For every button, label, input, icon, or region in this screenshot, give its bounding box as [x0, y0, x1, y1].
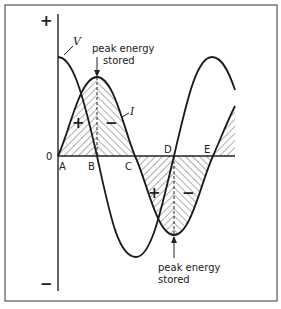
axis-minus-label: −: [40, 275, 53, 293]
top-arrow-head-icon: [94, 70, 100, 77]
point-label-d: D: [164, 144, 172, 155]
bottom-arrow-head-icon: [171, 236, 177, 243]
point-label-e: E: [204, 144, 210, 155]
energy-storage-diagram: V I + − 0 A B C D E + − + − peak energy …: [0, 0, 281, 309]
axis-plus-label: +: [40, 12, 53, 30]
region-sign-plus-1: +: [72, 114, 85, 132]
region-sign-plus-2: +: [148, 184, 161, 202]
current-label: I: [129, 105, 135, 118]
voltage-label: V: [73, 35, 82, 48]
region-sign-minus-1: −: [105, 114, 118, 132]
region-sign-minus-2: −: [182, 184, 195, 202]
bottom-annotation-line1: peak energy: [158, 262, 221, 273]
axis-zero-label: 0: [46, 151, 52, 162]
current-label-leader: [122, 113, 129, 117]
point-label-b: B: [88, 161, 95, 172]
voltage-label-leader: [64, 46, 73, 55]
bottom-annotation-line2: stored: [158, 274, 190, 285]
point-label-c: C: [125, 161, 132, 172]
top-annotation-line1: peak energy: [92, 43, 155, 54]
top-annotation-line2: stored: [103, 55, 135, 66]
point-label-a: A: [59, 161, 66, 172]
